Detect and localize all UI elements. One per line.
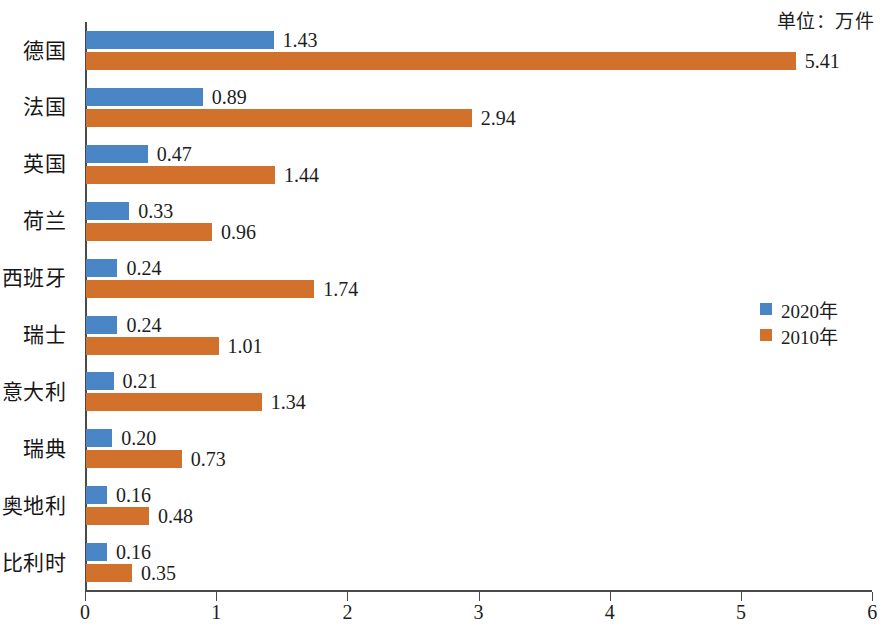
category-label: 荷兰 [23,211,66,232]
category-label: 比利时 [2,553,67,574]
x-axis-tick [347,592,348,601]
bar [86,393,262,411]
bar [86,259,117,277]
bar [86,88,203,106]
bar-value-label: 0.47 [157,145,192,163]
bar-value-label: 0.35 [141,564,176,582]
bar [86,337,219,355]
bar-value-label: 0.24 [126,316,161,334]
legend: 2020年2010年 [760,296,838,348]
bar [86,486,107,504]
category-label: 英国 [23,154,66,175]
bar-value-label: 5.41 [805,52,840,70]
legend-item: 2010年 [760,322,838,348]
x-axis-tick [479,592,480,601]
category-label: 瑞典 [23,439,66,460]
x-axis-tick-label: 2 [327,601,367,624]
bar [86,109,472,127]
bar [86,372,114,390]
bar-value-label: 2.94 [481,109,516,127]
x-axis-tick [741,592,742,601]
x-axis-tick-label: 5 [721,601,761,624]
bar-value-label: 0.33 [138,202,173,220]
x-axis-tick-label: 4 [590,601,630,624]
bar [86,450,182,468]
legend-label: 2020年 [781,296,838,323]
bar [86,145,148,163]
bar-chart: 单位：万件 0123456 1.435.410.892.940.471.440.… [0,0,888,626]
bar-value-label: 0.96 [221,223,256,241]
bar-value-label: 1.74 [323,280,358,298]
bar [86,223,212,241]
x-axis-tick-label: 0 [65,601,105,624]
bar [86,429,112,447]
legend-swatch-icon [760,329,772,341]
bar-value-label: 0.16 [116,543,151,561]
x-axis-tick-label: 3 [459,601,499,624]
bar-value-label: 0.48 [158,507,193,525]
bar-value-label: 0.20 [121,429,156,447]
x-axis-tick-label: 6 [852,601,888,624]
x-axis-tick-label: 1 [196,601,236,624]
bar-value-label: 0.73 [191,450,226,468]
bar-value-label: 0.21 [123,372,158,390]
legend-swatch-icon [760,303,772,315]
category-label: 德国 [23,41,66,62]
category-label: 西班牙 [2,268,67,289]
bar [86,166,275,184]
x-axis-tick [85,592,86,601]
bar-value-label: 1.43 [283,31,318,49]
bar [86,316,117,334]
bar-value-label: 1.01 [228,337,263,355]
category-label: 法国 [23,97,66,118]
bar [86,31,274,49]
bar [86,52,796,70]
bar-value-label: 0.24 [126,259,161,277]
category-label: 奥地利 [2,496,67,517]
legend-item: 2020年 [760,296,838,322]
x-axis-tick [216,592,217,601]
category-label: 意大利 [2,382,67,403]
bar [86,543,107,561]
plot-area: 0123456 1.435.410.892.940.471.440.330.96… [0,0,888,626]
y-axis-line [85,22,87,590]
bar [86,280,314,298]
bar-value-label: 0.89 [212,88,247,106]
bar-value-label: 1.44 [284,166,319,184]
category-label: 瑞士 [23,325,66,346]
x-axis-tick [610,592,611,601]
bar-value-label: 0.16 [116,486,151,504]
bar-value-label: 1.34 [271,393,306,411]
x-axis-tick [872,592,873,601]
bar [86,202,129,220]
bar [86,564,132,582]
bar [86,507,149,525]
legend-label: 2010年 [781,322,838,349]
